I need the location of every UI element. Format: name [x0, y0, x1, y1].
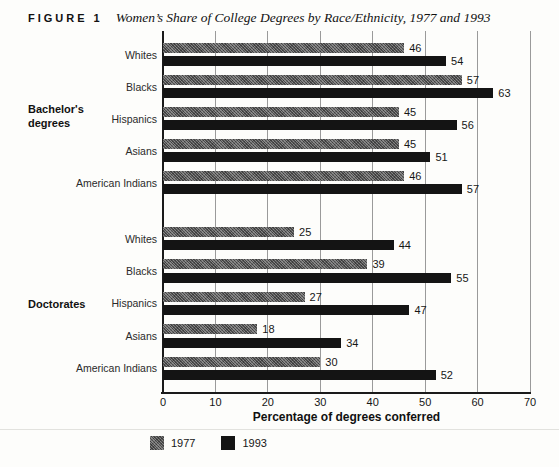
scanned-figure-page: FIGURE 1 Women’s Share of College Degree… [0, 0, 559, 467]
bar-value-label: 63 [498, 87, 510, 99]
bar-1977 [163, 171, 404, 181]
x-axis-title: Percentage of degrees conferred [163, 410, 530, 424]
bar-value-label: 52 [441, 369, 453, 381]
bar-1993 [163, 370, 436, 380]
bar-value-label: 18 [262, 323, 274, 335]
bar-1993 [163, 240, 394, 250]
category-label: American Indians [37, 176, 157, 190]
bar-value-label: 46 [409, 170, 421, 182]
x-tick-label: 10 [200, 396, 230, 408]
category-label: Whites [37, 48, 157, 62]
bar-1977 [163, 75, 462, 85]
x-tick-label: 50 [410, 396, 440, 408]
x-tick-label: 70 [515, 396, 545, 408]
bar-1977 [163, 43, 404, 53]
bar-1977 [163, 292, 305, 302]
x-axis-line [161, 392, 531, 394]
x-tick-label: 60 [463, 396, 493, 408]
legend-swatch-1993 [221, 436, 235, 450]
category-label: Blacks [37, 80, 157, 94]
bar-value-label: 27 [310, 291, 322, 303]
bar-value-label: 39 [372, 258, 384, 270]
bar-1977 [163, 357, 320, 367]
bar-value-label: 45 [404, 138, 416, 150]
bar-value-label: 34 [346, 337, 358, 349]
category-label: Asians [37, 144, 157, 158]
category-label: Hispanics [37, 112, 157, 126]
category-label: Asians [37, 329, 157, 343]
legend-label-1977: 1977 [171, 437, 195, 449]
x-tick-label: 30 [305, 396, 335, 408]
bar-value-label: 54 [451, 55, 463, 67]
gridline [372, 31, 373, 392]
category-label: Hispanics [37, 296, 157, 310]
x-tick-label: 20 [253, 396, 283, 408]
bar-1977 [163, 139, 399, 149]
bar-value-label: 30 [325, 356, 337, 368]
bar-value-label: 51 [435, 151, 447, 163]
bar-1993 [163, 184, 462, 194]
category-label: American Indians [37, 361, 157, 375]
chart-legend: 1977 1993 [150, 436, 267, 450]
gridline [425, 31, 426, 392]
bar-1993 [163, 338, 341, 348]
bar-value-label: 56 [462, 119, 474, 131]
bar-1993 [163, 305, 409, 315]
legend-swatch-1977 [150, 436, 164, 450]
bar-value-label: 57 [467, 74, 479, 86]
bar-value-label: 25 [299, 226, 311, 238]
bar-1977 [163, 324, 257, 334]
bar-value-label: 45 [404, 106, 416, 118]
bar-1993 [163, 88, 493, 98]
legend-label-1993: 1993 [242, 437, 266, 449]
bar-value-label: 47 [414, 304, 426, 316]
bar-1977 [163, 227, 294, 237]
bar-1993 [163, 120, 457, 130]
bar-value-label: 55 [456, 272, 468, 284]
bar-1993 [163, 56, 446, 66]
gridline [530, 31, 531, 392]
bar-value-label: 44 [399, 239, 411, 251]
figure-bottom-separator [0, 429, 559, 430]
bar-1993 [163, 152, 430, 162]
bar-value-label: 46 [409, 42, 421, 54]
x-tick-label: 40 [358, 396, 388, 408]
bar-1993 [163, 273, 451, 283]
x-tick-label: 0 [148, 396, 178, 408]
bar-value-label: 57 [467, 183, 479, 195]
bar-1977 [163, 107, 399, 117]
category-label: Whites [37, 232, 157, 246]
bar-1977 [163, 259, 367, 269]
chart-canvas: 010203040506070Bachelor's degreesWhites4… [0, 0, 559, 467]
category-label: Blacks [37, 264, 157, 278]
